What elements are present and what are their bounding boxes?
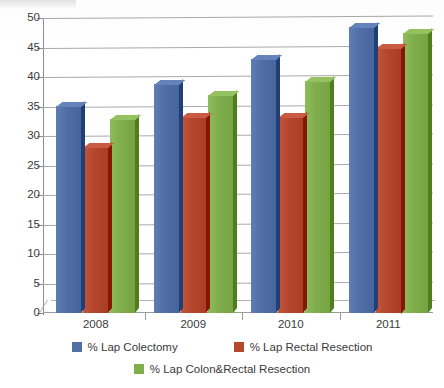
bar-face	[305, 81, 330, 313]
bar[interactable]	[154, 84, 179, 313]
y-axis-tick-labels: 05101520253035404550	[0, 18, 40, 313]
bar[interactable]	[56, 106, 81, 313]
y-axis-tick-label: 20	[6, 189, 40, 201]
x-axis-tick	[145, 313, 146, 320]
bar[interactable]	[83, 147, 108, 313]
bar-face	[376, 48, 401, 314]
bar-face	[251, 59, 276, 313]
bar-chart: 05101520253035404550 2008200920102011 % …	[0, 0, 444, 388]
legend-row-secondary: % Lap Colon&Rectal Resection	[0, 363, 444, 375]
y-axis-tick-label: 30	[6, 130, 40, 142]
bar-side-face	[303, 111, 307, 313]
bar-side-face	[428, 28, 432, 313]
bar[interactable]	[110, 119, 135, 313]
bar[interactable]	[403, 33, 428, 313]
bar-side-face	[401, 42, 405, 313]
legend-label: % Lap Rectal Resection	[250, 341, 373, 353]
bar[interactable]	[181, 117, 206, 313]
x-axis-category-label: 2008	[61, 318, 131, 330]
legend-item[interactable]: % Lap Rectal Resection	[234, 341, 373, 353]
bar-group	[154, 18, 233, 313]
bar[interactable]	[208, 95, 233, 313]
bar[interactable]	[278, 117, 303, 313]
x-axis-category-label: 2009	[158, 318, 228, 330]
y-axis-tick-label: 50	[6, 12, 40, 24]
y-axis-tick-label: 45	[6, 42, 40, 54]
bar[interactable]	[251, 59, 276, 313]
legend-label: % Lap Colon&Rectal Resection	[150, 363, 310, 375]
y-axis-tick-label: 10	[6, 248, 40, 260]
bar-side-face	[206, 111, 210, 313]
bar-face	[403, 33, 428, 313]
legend-swatch-blue	[72, 342, 82, 352]
legend-item[interactable]: % Lap Colon&Rectal Resection	[134, 363, 310, 375]
bar-face	[83, 147, 108, 313]
y-axis-tick-label: 0	[6, 307, 40, 319]
y-axis-tick-label: 35	[6, 101, 40, 113]
y-axis-tick-label: 15	[6, 219, 40, 231]
bar-face	[154, 84, 179, 313]
bar-face	[181, 117, 206, 313]
x-axis-category-labels: 2008200920102011	[43, 318, 435, 334]
legend-label: % Lap Colectomy	[88, 341, 178, 353]
bar-side-face	[81, 101, 85, 313]
bar-groups	[43, 18, 433, 313]
bar-top-face	[376, 44, 407, 49]
bar-face	[278, 117, 303, 313]
bar-side-face	[108, 142, 112, 313]
bar-group	[251, 18, 330, 313]
bar-side-face	[374, 22, 378, 313]
bar-face	[110, 119, 135, 313]
legend-swatch-red	[234, 342, 244, 352]
x-axis-tick	[242, 313, 243, 320]
bar-side-face	[233, 90, 237, 313]
y-axis-tick-label: 5	[6, 278, 40, 290]
y-axis-tick-label: 40	[6, 71, 40, 83]
bar-side-face	[330, 76, 334, 313]
x-axis-category-label: 2010	[256, 318, 326, 330]
bar[interactable]	[305, 81, 330, 313]
bar-side-face	[179, 79, 183, 313]
chart-legend: % Lap Colectomy% Lap Rectal Resection % …	[0, 341, 444, 387]
bar-face	[208, 95, 233, 313]
y-axis-tick-label: 25	[6, 160, 40, 172]
bar-face	[56, 106, 81, 313]
x-axis-tick	[340, 313, 341, 320]
bar-group	[349, 18, 428, 313]
bar-face	[349, 27, 374, 313]
legend-swatch-green	[134, 364, 144, 374]
bar-top-face	[181, 113, 212, 118]
legend-item[interactable]: % Lap Colectomy	[72, 341, 178, 353]
bar-group	[56, 18, 135, 313]
legend-row-primary: % Lap Colectomy% Lap Rectal Resection	[0, 341, 444, 353]
bar-side-face	[276, 54, 280, 313]
bar-side-face	[135, 114, 139, 313]
bar[interactable]	[349, 27, 374, 313]
scan-artifact	[0, 0, 76, 9]
bar[interactable]	[376, 48, 401, 314]
x-axis-category-label: 2011	[353, 318, 423, 330]
